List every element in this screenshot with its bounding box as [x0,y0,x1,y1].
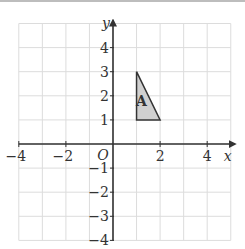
x-tick-label: −4 [5,148,26,164]
y-tick-label: 3 [100,64,109,80]
y-tick-label: −4 [88,232,109,248]
grid-lines [19,24,231,241]
x-tick-label: 2 [156,148,165,164]
y-tick-label: 2 [100,88,109,104]
y-tick-label: −2 [88,184,109,200]
axis-labels: −4−2244321−1−2−3−4Oxy [5,15,231,249]
y-axis-label: y [101,15,111,31]
y-tick-label: −3 [88,208,109,224]
x-axis-label: x [224,148,232,164]
origin-label: O [97,147,109,163]
y-tick-label: 1 [100,112,109,128]
shape-label: A [135,93,148,109]
x-tick-label: −2 [53,148,74,164]
coordinate-plane: A −4−2244321−1−2−3−4Oxy [0,0,245,249]
x-tick-label: 4 [203,148,212,164]
axes [19,21,235,241]
y-tick-label: 4 [100,40,109,56]
